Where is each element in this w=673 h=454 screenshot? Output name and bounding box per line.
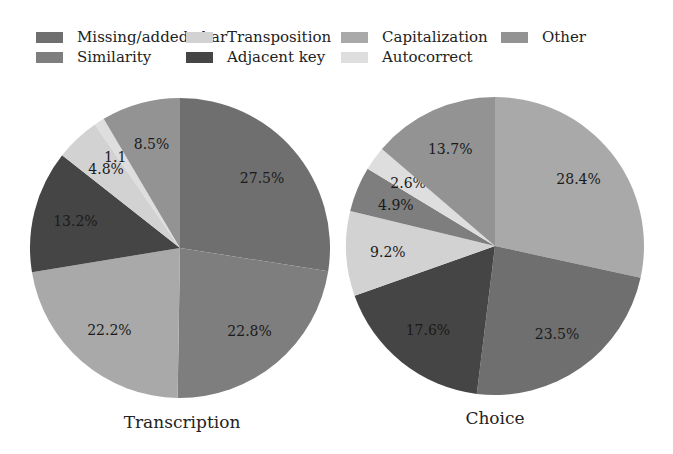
pie-transcription: 27.5%22.8%22.2%13.2%4.8%1.1%8.5% [30, 98, 330, 398]
slice-percent-label: 22.2% [87, 322, 131, 338]
pie-choice: 28.4%23.5%17.6%9.2%4.9%2.6%13.7% [346, 97, 644, 395]
pie-title-choice: Choice [395, 408, 595, 428]
slice-percent-label: 13.7% [428, 141, 472, 157]
slice-percent-label: 13.2% [53, 213, 97, 229]
slice-percent-label: 17.6% [406, 322, 450, 338]
slice-percent-label: 22.8% [227, 323, 271, 339]
pie-slice-capitalization [495, 97, 644, 278]
pie-charts: 27.5%22.8%22.2%13.2%4.8%1.1%8.5% 28.4%23… [0, 0, 673, 454]
slice-percent-label: 4.9% [378, 197, 414, 213]
slice-percent-label: 8.5% [134, 136, 170, 152]
slice-percent-label: 9.2% [370, 244, 406, 260]
slice-percent-label: 28.4% [556, 171, 600, 187]
slice-percent-label: 27.5% [240, 170, 284, 186]
pie-title-transcription: Transcription [82, 412, 282, 432]
slice-percent-label: 23.5% [535, 326, 579, 342]
